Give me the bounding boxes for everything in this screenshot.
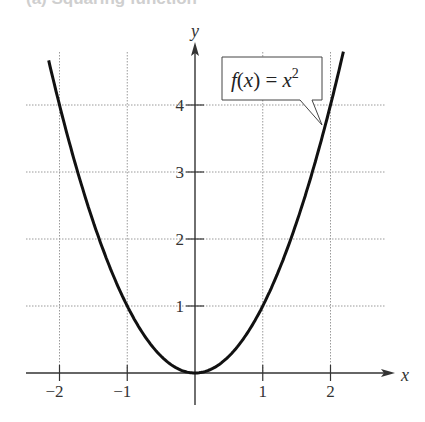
x-tick-label: −1 [113, 382, 131, 401]
x-tick-label: −2 [45, 382, 63, 401]
parabola-chart: −2−1121234 f(x) = x2 x y [0, 0, 425, 422]
y-axis-label: y [189, 21, 199, 41]
axis-ticks: −2−1121234 [45, 96, 334, 401]
y-tick-label: 4 [176, 96, 185, 115]
y-tick-label: 3 [176, 163, 185, 182]
function-callout: f(x) = x2 [222, 57, 322, 125]
x-tick-label: 2 [326, 382, 335, 401]
callout-label: f(x) = x2 [231, 66, 299, 92]
y-tick-label: 1 [176, 297, 185, 316]
x-tick-label: 1 [259, 382, 268, 401]
y-tick-label: 2 [176, 230, 185, 249]
axes [26, 42, 395, 405]
x-axis-label: x [400, 365, 409, 385]
